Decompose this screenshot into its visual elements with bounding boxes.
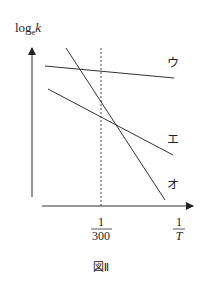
- y-axis-label: logek: [15, 20, 41, 37]
- marker-denominator: 300: [92, 229, 110, 243]
- label-e: エ: [167, 133, 179, 147]
- arrhenius-diagram: ウ エ オ logek 1 300 1 T 図Ⅱ: [0, 0, 202, 290]
- label-o: オ: [167, 178, 179, 192]
- line-o: [66, 48, 165, 200]
- x-axis-denominator: T: [176, 229, 184, 243]
- figure-caption: 図Ⅱ: [93, 261, 109, 274]
- line-u: [45, 66, 174, 78]
- marker-numerator: 1: [98, 215, 104, 229]
- line-e: [48, 89, 173, 155]
- label-u: ウ: [167, 56, 179, 70]
- x-axis-numerator: 1: [176, 215, 182, 229]
